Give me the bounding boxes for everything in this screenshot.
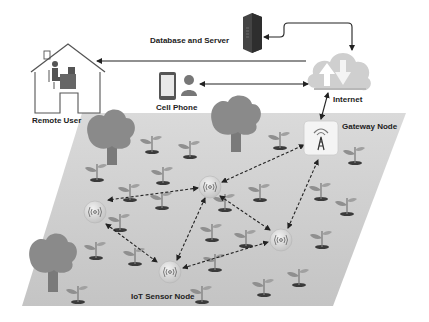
internet-label: Internet bbox=[333, 95, 362, 104]
internet-cloud-icon bbox=[308, 53, 371, 90]
iot-sensor-node bbox=[199, 176, 221, 198]
gateway-node-label: Gateway Node bbox=[342, 122, 397, 131]
remote-user-house-icon bbox=[31, 44, 105, 113]
cell-phone-icon bbox=[159, 72, 197, 100]
iot-sensor-node bbox=[159, 261, 181, 283]
remote-user-label: Remote User bbox=[32, 116, 81, 125]
iot-sensor-node bbox=[84, 201, 106, 223]
iot-sensor-node bbox=[270, 229, 292, 251]
farm-field bbox=[22, 113, 406, 306]
gateway-node-icon bbox=[304, 121, 338, 155]
iot-sensor-node-label: IoT Sensor Node bbox=[131, 292, 195, 301]
cell-phone-label: Cell Phone bbox=[156, 103, 197, 112]
iot-network-diagram: Database and Server Remote User Cell Pho… bbox=[0, 0, 429, 322]
diagram-svg bbox=[0, 0, 429, 322]
database-server-icon bbox=[243, 13, 262, 53]
database-server-label: Database and Server bbox=[150, 36, 229, 45]
